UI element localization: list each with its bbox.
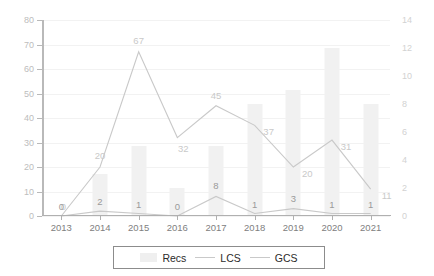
chart-container: 02067324537203111021081311 0102030405060… [0, 0, 434, 276]
y-axis-left-label: 30 [0, 138, 34, 148]
data-label: 31 [341, 141, 352, 152]
data-label: 0 [59, 201, 64, 212]
y-tick [37, 94, 42, 95]
y-tick [37, 45, 42, 46]
x-tick [293, 215, 294, 220]
data-label: 1 [368, 198, 373, 209]
x-tick [177, 215, 178, 220]
line-swatch-icon [195, 257, 215, 258]
x-axis-label: 2013 [51, 222, 72, 233]
y-axis-right-label: 6 [402, 127, 407, 137]
y-axis-left-label: 60 [0, 64, 34, 74]
y-tick [37, 167, 42, 168]
y-tick [37, 143, 42, 144]
legend-label-recs: Recs [162, 252, 186, 264]
data-label: 0 [175, 201, 180, 212]
line-lcs [61, 196, 370, 216]
line-gcs [61, 52, 370, 216]
y-axis-left-label: 10 [0, 187, 34, 197]
x-axis-label: 2018 [244, 222, 265, 233]
legend-item-lcs: LCS [195, 252, 240, 264]
data-label: 1 [136, 198, 141, 209]
x-tick [216, 215, 217, 220]
data-label: 20 [95, 150, 106, 161]
data-label: 67 [133, 34, 144, 45]
y-axis-left-label: 50 [0, 89, 34, 99]
x-axis-label: 2019 [283, 222, 304, 233]
x-tick [61, 215, 62, 220]
chart-legend: Recs LCS GCS [113, 246, 325, 269]
y-axis-right-label: 4 [402, 155, 407, 165]
data-label: 37 [263, 126, 274, 137]
data-label: 1 [252, 198, 257, 209]
data-label: 8 [213, 180, 218, 191]
y-axis-left-label: 20 [0, 162, 34, 172]
x-tick [371, 215, 372, 220]
y-axis-right-label: 10 [402, 71, 412, 81]
y-axis-left-label: 70 [0, 40, 34, 50]
y-axis-right-label: 8 [402, 99, 407, 109]
bar-swatch-icon [140, 253, 157, 262]
data-label: 2 [97, 196, 102, 207]
x-tick [139, 215, 140, 220]
x-axis-label: 2014 [89, 222, 110, 233]
x-axis-label: 2020 [321, 222, 342, 233]
x-axis-label: 2016 [167, 222, 188, 233]
y-tick [37, 192, 42, 193]
data-label: 1 [329, 198, 334, 209]
y-tick [37, 118, 42, 119]
data-label: 3 [291, 192, 296, 203]
y-tick [37, 69, 42, 70]
y-axis-right-label: 12 [402, 43, 412, 53]
x-tick [255, 215, 256, 220]
data-label: 11 [382, 190, 392, 201]
y-axis-left-label: 80 [0, 15, 34, 25]
data-label: 32 [178, 142, 189, 153]
y-tick [37, 20, 42, 21]
x-tick [332, 215, 333, 220]
data-label: 45 [211, 89, 222, 100]
x-axis-label: 2015 [128, 222, 149, 233]
plot-area: 02067324537203111021081311 [42, 20, 390, 216]
y-axis-left [42, 20, 44, 216]
legend-item-recs: Recs [140, 252, 186, 264]
x-axis-label: 2017 [205, 222, 226, 233]
y-axis-right-label: 14 [402, 15, 412, 25]
line-swatch-icon [250, 257, 270, 258]
data-label: 20 [302, 168, 313, 179]
legend-item-gcs: GCS [250, 252, 298, 264]
x-tick [100, 215, 101, 220]
y-axis-left-label: 0 [0, 211, 34, 221]
x-axis [42, 215, 391, 216]
y-tick [37, 216, 42, 217]
y-axis-right-label: 0 [402, 211, 407, 221]
x-axis-label: 2021 [360, 222, 381, 233]
legend-label-lcs: LCS [220, 252, 240, 264]
y-axis-left-label: 40 [0, 113, 34, 123]
y-axis-right-label: 2 [402, 183, 407, 193]
legend-label-gcs: GCS [275, 252, 298, 264]
